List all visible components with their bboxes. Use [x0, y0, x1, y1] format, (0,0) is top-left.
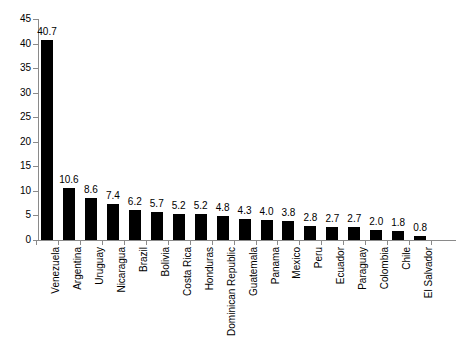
x-axis-category-label: Paraguay — [358, 247, 368, 290]
y-axis-tick-label: 35 — [3, 63, 31, 73]
y-axis-tick-label: 15 — [3, 161, 31, 171]
y-axis-tick-label: 0 — [3, 235, 31, 245]
bar — [195, 214, 207, 240]
y-axis-tick-label: 20 — [3, 137, 31, 147]
bar — [107, 204, 119, 240]
x-axis-tick — [409, 241, 410, 245]
bar-chart: 051015202530354045 40.710.68.67.46.25.75… — [0, 0, 462, 346]
bar — [85, 198, 97, 240]
y-axis-tick-label: 25 — [3, 112, 31, 122]
bar — [370, 230, 382, 240]
x-axis-category-label: El Salvador — [424, 247, 434, 298]
bar-value-label: 40.7 — [30, 27, 64, 37]
bar — [282, 221, 294, 240]
x-axis-tick — [234, 241, 235, 245]
x-axis-tick — [387, 241, 388, 245]
y-axis-tick-label: 30 — [3, 88, 31, 98]
x-axis-category-label: Costa Rica — [183, 247, 193, 296]
x-axis-category-label: Venezuela — [51, 247, 61, 294]
x-axis-category-label: Guatemala — [249, 247, 259, 296]
x-axis-category-label: Brazil — [139, 247, 149, 272]
bar — [239, 219, 251, 240]
y-axis-tick-label: 45 — [3, 14, 31, 24]
bar — [151, 212, 163, 240]
x-axis-tick — [212, 241, 213, 245]
x-axis-category-label: Peru — [314, 247, 324, 268]
x-axis-tick — [168, 241, 169, 245]
x-axis-tick — [256, 241, 257, 245]
x-axis-tick — [124, 241, 125, 245]
x-axis-tick — [58, 241, 59, 245]
x-axis-category-label: Chile — [402, 247, 412, 270]
bar — [129, 210, 141, 240]
x-axis-category-label: Colombia — [380, 247, 390, 289]
x-axis-tick — [343, 241, 344, 245]
x-axis-tick — [36, 241, 37, 245]
x-axis-category-label: Dominican Republic — [227, 247, 237, 336]
x-axis-tick — [277, 241, 278, 245]
bar-value-label: 10.6 — [52, 175, 86, 185]
bar — [41, 40, 53, 240]
bar — [414, 236, 426, 240]
x-axis-category-label: Honduras — [205, 247, 215, 290]
x-axis-category-label: Mexico — [292, 247, 302, 279]
bar — [173, 214, 185, 240]
x-axis-tick — [299, 241, 300, 245]
x-axis-category-label: Uruguay — [95, 247, 105, 285]
x-axis-tick — [365, 241, 366, 245]
x-axis-category-label: Ecuador — [336, 247, 346, 284]
x-axis-tick — [80, 241, 81, 245]
x-axis-line — [38, 240, 456, 241]
y-axis-tick-label: 40 — [3, 39, 31, 49]
bar-value-label: 0.8 — [403, 223, 437, 233]
x-axis-category-label: Panama — [271, 247, 281, 284]
x-axis-category-label: Bolivia — [161, 247, 171, 276]
x-axis-category-label: Nicaragua — [117, 247, 127, 293]
y-axis-line — [38, 19, 39, 241]
bar — [326, 227, 338, 240]
bar — [63, 188, 75, 240]
x-axis-tick — [190, 241, 191, 245]
y-axis-tick-labels: 051015202530354045 — [0, 0, 31, 346]
y-axis-tick-label: 5 — [3, 210, 31, 220]
bar — [217, 216, 229, 240]
bar — [348, 227, 360, 240]
x-axis-tick — [102, 241, 103, 245]
y-axis-tick-label: 10 — [3, 186, 31, 196]
bar — [261, 220, 273, 240]
x-axis-tick — [146, 241, 147, 245]
x-axis-category-label: Argentina — [73, 247, 83, 290]
x-axis-tick — [321, 241, 322, 245]
bar — [304, 226, 316, 240]
x-axis-tick — [431, 241, 432, 245]
